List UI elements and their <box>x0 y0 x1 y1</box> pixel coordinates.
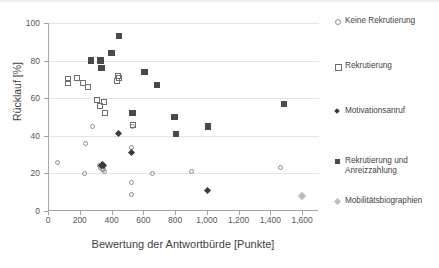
data-point <box>83 141 88 146</box>
legend-item[interactable]: Rekrutierung <box>334 61 439 71</box>
gridline <box>49 136 319 137</box>
circle-open-icon <box>334 16 343 26</box>
x-tick-mark <box>80 211 81 215</box>
plot-area <box>48 23 318 211</box>
x-tick-label: 1,600 <box>282 216 322 225</box>
legend-item-label: Rekrutierung <box>345 61 392 71</box>
square-filled-icon <box>334 156 343 166</box>
data-point <box>173 131 180 138</box>
data-point <box>65 76 71 82</box>
data-point <box>129 180 134 185</box>
y-tick-label: 0 <box>6 207 40 216</box>
data-point <box>88 57 95 64</box>
data-point <box>129 110 136 117</box>
data-point <box>128 149 135 156</box>
data-point <box>85 84 91 90</box>
data-point <box>130 122 136 128</box>
x-tick-mark <box>270 211 271 215</box>
y-tick-label: 40 <box>6 132 40 141</box>
data-point <box>281 101 288 108</box>
data-point <box>116 33 123 40</box>
x-tick-mark <box>207 211 208 215</box>
legend-item[interactable]: Rekrutierung und Anreizzahlung <box>334 156 439 176</box>
x-axis-title: Bewertung der Antwortbürde [Punkte] <box>0 238 366 250</box>
data-point <box>116 75 122 81</box>
data-point <box>101 99 107 105</box>
legend-item-label: Mobilitätsbiographien <box>345 196 422 206</box>
x-tick-mark <box>239 211 240 215</box>
gridline <box>49 98 319 99</box>
legend-item-label: Motivationsanruf <box>345 106 405 116</box>
legend-item[interactable]: Mobilitätsbiographien <box>334 196 439 206</box>
x-tick-mark <box>302 211 303 215</box>
gridline <box>49 173 319 174</box>
data-point <box>278 165 283 170</box>
legend-item[interactable]: Keine Rekrutierung <box>334 16 439 26</box>
data-point <box>204 187 211 194</box>
data-point <box>55 160 60 165</box>
x-tick-mark <box>175 211 176 215</box>
data-point <box>141 69 148 76</box>
x-tick-mark <box>48 211 49 215</box>
data-point <box>90 124 95 129</box>
x-tick-mark <box>143 211 144 215</box>
y-tick-label: 60 <box>6 94 40 103</box>
data-point <box>82 171 87 176</box>
data-point <box>98 65 105 72</box>
legend-item-label: Rekrutierung und Anreizzahlung <box>345 156 439 176</box>
data-point <box>102 110 108 116</box>
data-point <box>205 123 212 130</box>
data-point <box>150 171 155 176</box>
gridline <box>49 23 319 24</box>
diamond-light-icon <box>334 196 343 206</box>
y-tick-label: 20 <box>6 169 40 178</box>
legend-item-label: Keine Rekrutierung <box>345 16 415 26</box>
data-point <box>154 82 161 89</box>
scatter-chart-figure: Rücklauf [%] 020406080100 02004006008001… <box>0 0 439 268</box>
y-tick-label: 80 <box>6 57 40 66</box>
data-point <box>97 57 104 64</box>
data-point <box>108 50 115 57</box>
scan-edge-artifact <box>0 0 439 2</box>
data-point <box>297 192 305 200</box>
data-point <box>171 114 178 121</box>
x-tick-mark <box>112 211 113 215</box>
square-open-icon <box>334 61 343 71</box>
data-point <box>74 75 80 81</box>
diamond-filled-icon <box>334 106 343 116</box>
data-point <box>129 192 134 197</box>
y-tick-label: 100 <box>6 19 40 28</box>
legend-item[interactable]: Motivationsanruf <box>334 106 439 116</box>
